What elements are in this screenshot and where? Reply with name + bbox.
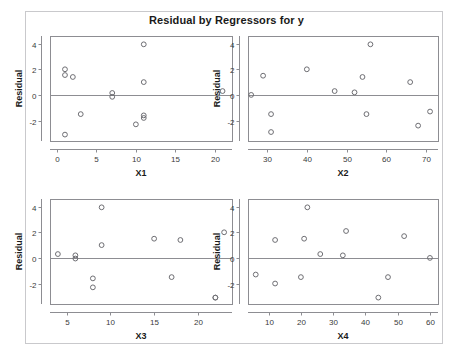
y-axis-title: Residual bbox=[212, 233, 222, 271]
x-tick-label: 60 bbox=[426, 318, 435, 327]
y-axis-title: Residual bbox=[212, 70, 222, 108]
x-tick-label: 20 bbox=[194, 318, 203, 327]
y-tick-label: 2 bbox=[230, 66, 235, 75]
y-tick-label: -2 bbox=[227, 281, 235, 290]
residual-plot-figure: Residual by Regressors for y 420-2Residu… bbox=[0, 0, 453, 356]
x-axis-title: X1 bbox=[135, 168, 146, 178]
x-tick-label: 40 bbox=[303, 155, 312, 164]
x-tick-label: 60 bbox=[382, 155, 391, 164]
x-tick-label: 50 bbox=[343, 155, 352, 164]
y-tick-label: -2 bbox=[29, 281, 37, 290]
y-tick-label: -2 bbox=[29, 118, 37, 127]
y-tick-label: 4 bbox=[32, 41, 37, 50]
x-tick-label: 15 bbox=[150, 318, 159, 327]
y-tick-label: 0 bbox=[230, 255, 235, 264]
x-tick-label: 40 bbox=[361, 318, 370, 327]
y-tick-label: 4 bbox=[32, 204, 37, 213]
x-tick-label: 15 bbox=[171, 155, 180, 164]
panel-frame bbox=[249, 200, 439, 305]
x-tick-label: 50 bbox=[394, 318, 403, 327]
x-tick-label: 20 bbox=[297, 318, 306, 327]
scatter-panel-x3: 420-2Residual5101520X3 bbox=[14, 199, 233, 341]
y-tick-label: 2 bbox=[230, 229, 235, 238]
x-tick-label: 20 bbox=[211, 155, 220, 164]
panel-frame bbox=[249, 37, 439, 142]
y-axis-title: Residual bbox=[14, 233, 24, 271]
x-tick-label: 10 bbox=[265, 318, 274, 327]
panel-frame bbox=[51, 37, 233, 142]
y-tick-label: 4 bbox=[230, 41, 235, 50]
x-tick-label: 30 bbox=[263, 155, 272, 164]
y-axis-title: Residual bbox=[14, 70, 24, 108]
x-tick-label: 30 bbox=[329, 318, 338, 327]
panel-frame bbox=[51, 200, 233, 305]
y-tick-label: 0 bbox=[230, 92, 235, 101]
x-axis-title: X2 bbox=[337, 168, 348, 178]
x-tick-label: 5 bbox=[94, 155, 99, 164]
y-tick-label: 2 bbox=[32, 229, 37, 238]
x-tick-label: 10 bbox=[132, 155, 141, 164]
x-axis-title: X4 bbox=[337, 331, 348, 341]
x-tick-label: 5 bbox=[65, 318, 70, 327]
x-tick-label: 0 bbox=[55, 155, 60, 164]
x-axis-title: X3 bbox=[135, 331, 146, 341]
y-tick-label: 4 bbox=[230, 204, 235, 213]
x-tick-label: 70 bbox=[422, 155, 431, 164]
scatter-panel-x4: 420-2Residual102030405060X4 bbox=[212, 199, 439, 341]
scatter-panel-x1: 420-2Residual05101520X1 bbox=[14, 36, 233, 178]
y-tick-label: -2 bbox=[227, 118, 235, 127]
x-tick-label: 10 bbox=[106, 318, 115, 327]
y-tick-label: 2 bbox=[32, 66, 37, 75]
scatter-panel-x2: 420-2Residual3040506070X2 bbox=[212, 36, 439, 178]
y-tick-label: 0 bbox=[32, 255, 37, 264]
scatter-panels-svg: 420-2Residual05101520X1420-2Residual3040… bbox=[0, 0, 453, 356]
y-tick-label: 0 bbox=[32, 92, 37, 101]
